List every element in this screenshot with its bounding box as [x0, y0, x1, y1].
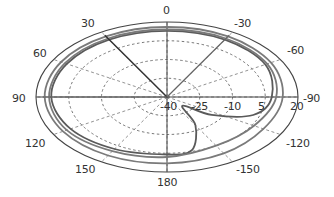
- angle-label: -30: [234, 18, 251, 29]
- angle-label: -60: [287, 45, 304, 56]
- polar-plot-svg: [0, 0, 334, 197]
- radial-label: -10: [224, 101, 241, 112]
- angle-label: -120: [286, 138, 310, 149]
- highlight-radial: [167, 35, 229, 97]
- radial-label: 5: [258, 101, 265, 112]
- angle-label: 120: [25, 138, 45, 149]
- angle-label: 150: [75, 164, 95, 175]
- angle-label: 180: [157, 177, 177, 188]
- angle-label: 0: [163, 5, 170, 16]
- grid-spoke: [167, 60, 280, 98]
- highlight-radial: [105, 35, 167, 97]
- grid-spoke: [54, 60, 167, 98]
- angle-label: 90: [12, 93, 25, 104]
- radial-label: -40: [160, 101, 177, 112]
- radial-label: -25: [191, 101, 208, 112]
- angle-label: -90: [303, 93, 320, 104]
- angle-label: -150: [236, 164, 260, 175]
- angle-label: 60: [33, 48, 46, 59]
- polar-chart: [0, 0, 334, 197]
- radial-label: 20: [290, 101, 303, 112]
- angle-label: 30: [81, 18, 94, 29]
